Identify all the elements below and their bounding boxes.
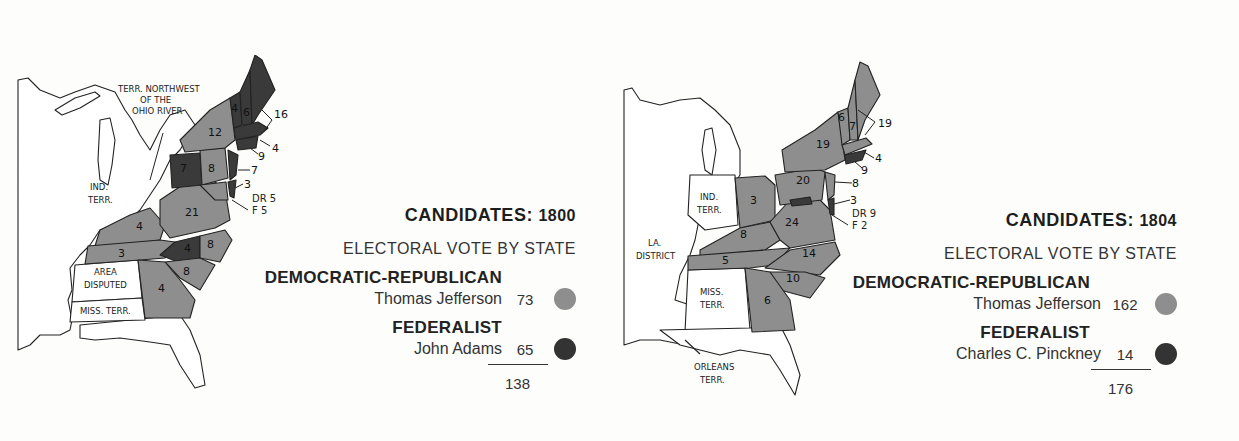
label-orleans-terr-1: ORLEANS — [694, 362, 734, 372]
title-year: 1800 — [538, 207, 576, 224]
candidate-row: Thomas Jefferson 162 — [777, 293, 1177, 315]
legend-title: CANDIDATES: 1804 — [777, 210, 1177, 231]
votes-tn: 3 — [118, 247, 125, 260]
votes-pa-west: 7 — [180, 162, 187, 175]
votes-nj: 8 — [852, 177, 859, 190]
florida — [80, 315, 205, 388]
label-disputed-1: AREA — [94, 267, 117, 277]
federalist-swatch-icon — [554, 338, 576, 360]
state-ny — [782, 112, 845, 172]
label-orleans-terr-2: TERR. — [699, 375, 725, 385]
votes-ga: 6 — [764, 294, 771, 307]
state-me-ma — [250, 55, 275, 125]
legend-title: CANDIDATES: 1800 — [196, 205, 576, 226]
legend-1800: CANDIDATES: 1800 ELECTORAL VOTE BY STATE… — [196, 205, 576, 392]
votes-tn: 5 — [722, 254, 729, 267]
votes-ky: 4 — [136, 220, 143, 233]
label-ind-terr-1: IND. — [90, 182, 108, 192]
votes-ma: 19 — [878, 117, 892, 130]
sum-divider — [1091, 369, 1151, 370]
label-ind-terr-2: TERR. — [87, 195, 113, 205]
label-terr-nw-2: OF THE — [140, 95, 171, 105]
votes-ma: 16 — [274, 108, 288, 121]
votes-nc-f: 4 — [184, 242, 191, 255]
votes-de: 3 — [244, 178, 251, 191]
votes-ct: 9 — [861, 164, 868, 177]
party-name: DEMOCRATIC-REPUBLICAN — [196, 268, 576, 288]
election-1800-panel: TERR. NORTHWEST OF THE OHIO RIVER IND. T… — [0, 0, 600, 441]
candidate-row: John Adams 65 — [196, 338, 576, 360]
label-miss-terr-1: MISS. — [700, 287, 723, 297]
votes-vt: 6 — [838, 111, 845, 124]
votes-ri: 4 — [272, 142, 279, 155]
legend-subtitle: ELECTORAL VOTE BY STATE — [777, 245, 1177, 263]
candidate-name: Charles C. Pinckney — [956, 345, 1101, 363]
title-year: 1804 — [1139, 212, 1177, 229]
votes-pa: 20 — [796, 174, 810, 187]
label-ind-terr-2: TERR. — [696, 205, 722, 215]
votes-nj: 7 — [251, 164, 258, 177]
candidate-name: Thomas Jefferson — [973, 295, 1101, 313]
votes-ny: 12 — [208, 126, 222, 139]
candidate-name: Thomas Jefferson — [374, 290, 502, 308]
votes-ky: 8 — [740, 228, 747, 241]
label-la-district-1: LA. — [648, 238, 661, 248]
ind-terr — [688, 175, 738, 230]
federalist-swatch-icon — [1155, 343, 1177, 365]
label-miss-terr: MISS. TERR. — [80, 306, 131, 316]
state-nj — [228, 150, 238, 180]
candidate-votes: 73 — [502, 291, 548, 308]
label-terr-nw-1: TERR. NORTHWEST — [117, 84, 201, 94]
state-de — [228, 180, 236, 198]
label-miss-terr-2: TERR. — [699, 300, 725, 310]
title-prefix: CANDIDATES: — [1006, 210, 1134, 230]
candidate-votes: 162 — [1101, 296, 1149, 313]
votes-nh: 7 — [849, 120, 856, 133]
party-name: DEMOCRATIC-REPUBLICAN — [777, 273, 1177, 293]
votes-ri: 4 — [875, 152, 882, 165]
democratic-republican-swatch-icon — [554, 288, 576, 310]
label-la-district-2: DISTRICT — [636, 251, 676, 261]
votes-ny: 19 — [816, 138, 830, 151]
legend-1804: CANDIDATES: 1804 ELECTORAL VOTE BY STATE… — [777, 210, 1177, 397]
party-name: FEDERALIST — [777, 323, 1177, 343]
label-terr-nw-3: OHIO RIVER — [132, 106, 183, 116]
label-md-dr: DR 5 — [252, 193, 276, 204]
votes-ga: 4 — [158, 282, 165, 295]
total-votes: 138 — [505, 375, 530, 392]
votes-oh: 3 — [750, 194, 757, 207]
votes-pa-east: 8 — [208, 162, 215, 175]
candidate-votes: 65 — [502, 341, 548, 358]
votes-ct: 9 — [258, 150, 265, 163]
candidate-votes: 14 — [1101, 346, 1149, 363]
votes-vt: 4 — [231, 102, 238, 115]
votes-nh: 6 — [243, 106, 250, 119]
election-1804-panel: IND. TERR. LA. DISTRICT MISS. TERR. ORLE… — [600, 0, 1239, 441]
label-ind-terr-1: IND. — [700, 192, 718, 202]
state-me — [855, 62, 880, 140]
total-votes: 176 — [1108, 380, 1133, 397]
label-disputed-2: DISPUTED — [84, 280, 127, 290]
votes-sc: 8 — [183, 265, 190, 278]
candidate-row: Thomas Jefferson 73 — [196, 288, 576, 310]
title-prefix: CANDIDATES: — [405, 205, 533, 225]
candidate-row: Charles C. Pinckney 14 — [777, 343, 1177, 365]
legend-subtitle: ELECTORAL VOTE BY STATE — [196, 240, 576, 258]
state-nj — [825, 172, 835, 200]
candidate-name: John Adams — [414, 340, 502, 358]
democratic-republican-swatch-icon — [1155, 293, 1177, 315]
sum-divider — [488, 364, 548, 365]
party-name: FEDERALIST — [196, 318, 576, 338]
votes-de: 3 — [850, 194, 857, 207]
